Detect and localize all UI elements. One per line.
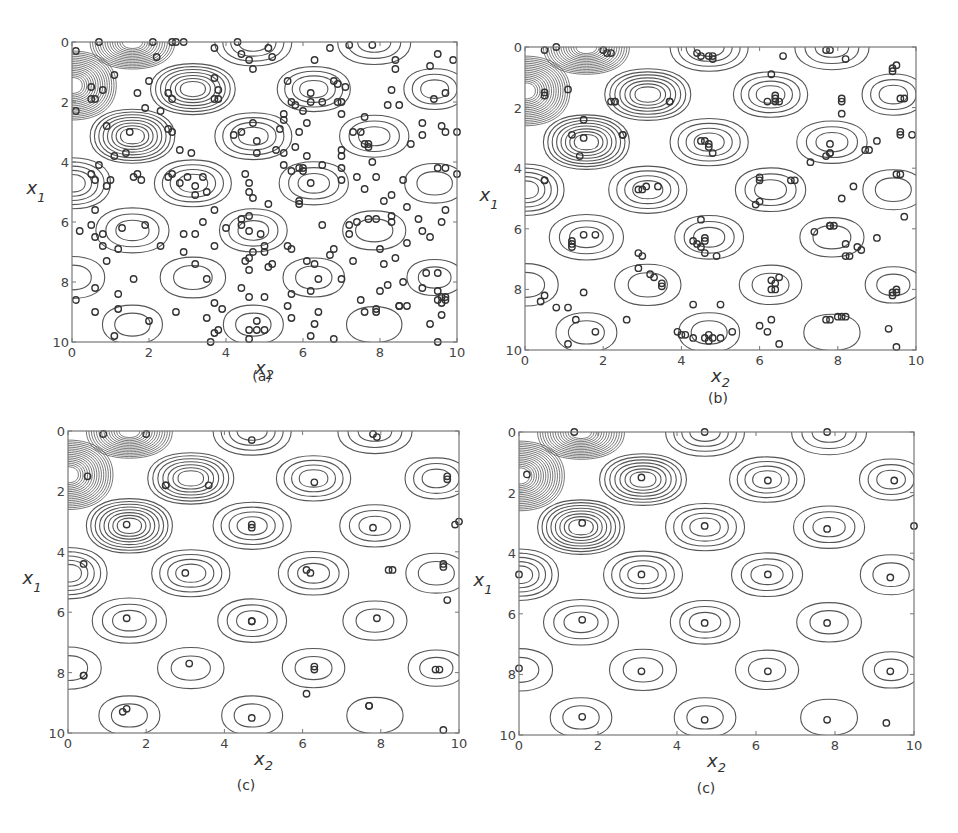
axes-frame [519,432,914,735]
contours [474,405,923,737]
y-tick-label: 2 [57,484,65,499]
chart-panel-c2: 02468100246810x2x1 [519,432,914,735]
axes-frame [525,47,916,350]
y-tick-label: 8 [514,282,522,297]
contours [23,404,468,735]
x-tick-label: 10 [906,738,923,753]
y-axis-label: x1 [26,177,46,205]
y-tick-label: 4 [57,545,65,560]
y-tick-label: 6 [508,607,516,622]
y-tick-label: 0 [61,35,69,50]
x-tick-label: 0 [64,736,72,751]
axis-ticks: 02468100246810 [52,35,465,360]
axes-frame [72,42,457,342]
y-tick-label: 2 [508,486,516,501]
y-axis-label: x1 [22,567,42,595]
y-tick-label: 4 [514,161,522,176]
x-axis-label: x2 [710,365,730,390]
x-tick-label: 8 [831,738,839,753]
x-tick-label: 8 [834,353,842,368]
population-markers [537,44,915,350]
x-tick-label: 0 [521,353,529,368]
chart-panel-a: 02468100246810x2x1 [72,42,457,342]
axis-ticks: 02468100246810 [499,425,922,753]
y-tick-label: 4 [61,155,69,170]
x-axis-label: x2 [253,748,273,773]
population-markers [73,39,461,345]
chart-panel-b: 02468100246810x2x1 [525,47,916,350]
x-tick-label: 8 [376,345,384,360]
y-tick-label: 8 [57,666,65,681]
chart-panel-c1: 02468100246810x2x1 [68,431,459,733]
y-tick-label: 10 [48,726,65,741]
y-axis-label: x1 [473,569,493,597]
x-tick-label: 4 [673,738,681,753]
axis-ticks: 02468100246810 [48,424,467,751]
y-tick-label: 0 [514,40,522,55]
axes-frame [68,431,459,733]
y-tick-label: 8 [508,667,516,682]
y-tick-label: 10 [52,335,69,350]
panel-caption-a: (a) [252,368,272,384]
x-tick-label: 6 [298,736,306,751]
axis-ticks: 02468100246810 [505,40,924,368]
y-tick-label: 0 [57,424,65,439]
x-tick-label: 2 [145,345,153,360]
contours [480,20,925,352]
x-tick-label: 6 [299,345,307,360]
x-axis-label: x2 [706,750,726,775]
y-tick-label: 0 [508,425,516,440]
y-tick-label: 6 [61,215,69,230]
x-tick-label: 10 [449,345,466,360]
population-markers [516,429,917,726]
y-tick-label: 2 [514,101,522,116]
x-tick-label: 2 [594,738,602,753]
y-tick-label: 8 [61,275,69,290]
y-tick-label: 6 [514,222,522,237]
panel-caption-b: (b) [708,390,728,406]
x-tick-label: 8 [377,736,385,751]
plot-area: 02468100246810x2x1 [72,42,457,342]
x-tick-label: 10 [451,736,468,751]
y-tick-label: 10 [499,728,516,743]
y-tick-label: 6 [57,605,65,620]
y-axis-label: x1 [479,184,499,212]
x-tick-label: 2 [142,736,150,751]
x-tick-label: 4 [220,736,228,751]
plot-area: 02468100246810x2x1 [68,431,459,733]
y-tick-label: 2 [61,95,69,110]
x-tick-label: 10 [908,353,925,368]
panel-caption-c2: (c) [697,780,716,796]
x-tick-label: 4 [677,353,685,368]
x-tick-label: 4 [222,345,230,360]
x-tick-label: 0 [515,738,523,753]
x-tick-label: 6 [755,353,763,368]
y-tick-label: 10 [505,343,522,358]
plot-area: 02468100246810x2x1 [519,432,914,735]
x-tick-label: 2 [599,353,607,368]
x-tick-label: 0 [68,345,76,360]
x-tick-label: 6 [752,738,760,753]
plot-area: 02468100246810x2x1 [525,47,916,350]
panel-caption-c1: (c) [237,777,256,793]
y-tick-label: 4 [508,546,516,561]
